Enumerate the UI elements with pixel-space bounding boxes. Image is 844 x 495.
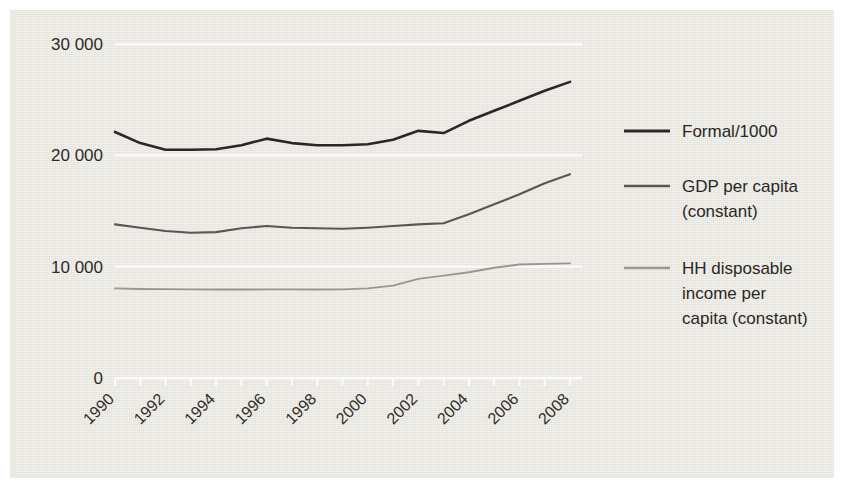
data-series — [115, 82, 570, 290]
legend-label: (constant) — [682, 202, 758, 221]
x-tick-label: 1994 — [181, 390, 218, 427]
x-tick-label: 2002 — [383, 390, 420, 427]
x-tick-label: 2006 — [484, 390, 521, 427]
x-tick-label: 2004 — [434, 390, 471, 427]
y-tick-label: 20 000 — [51, 146, 103, 165]
chart-legend: Formal/1000GDP per capita(constant)HH di… — [624, 122, 808, 328]
x-tick-label: 1990 — [80, 390, 117, 427]
x-axis-labels: 1990199219941996199820002002200420062008 — [80, 390, 572, 427]
y-tick-label: 30 000 — [51, 35, 103, 54]
line-chart: 010 00020 00030 000 19901992199419961998… — [10, 10, 834, 478]
legend-label: income per — [682, 284, 766, 303]
legend-label: capita (constant) — [682, 309, 808, 328]
gridlines — [115, 44, 582, 378]
y-tick-label: 0 — [94, 369, 103, 388]
y-tick-label: 10 000 — [51, 258, 103, 277]
x-tick-label: 2000 — [333, 390, 370, 427]
series-line — [115, 82, 570, 150]
x-tick-label: 1998 — [282, 390, 319, 427]
chart-figure: 010 00020 00030 000 19901992199419961998… — [10, 10, 834, 478]
legend-label: HH disposable — [682, 259, 793, 278]
legend-label: Formal/1000 — [682, 122, 777, 141]
legend-label: GDP per capita — [682, 177, 798, 196]
series-line — [115, 174, 570, 232]
x-tick-label: 1992 — [130, 390, 167, 427]
y-axis-labels: 010 00020 00030 000 — [51, 35, 103, 388]
x-tick-label: 2008 — [535, 390, 572, 427]
x-tick-label: 1996 — [232, 390, 269, 427]
